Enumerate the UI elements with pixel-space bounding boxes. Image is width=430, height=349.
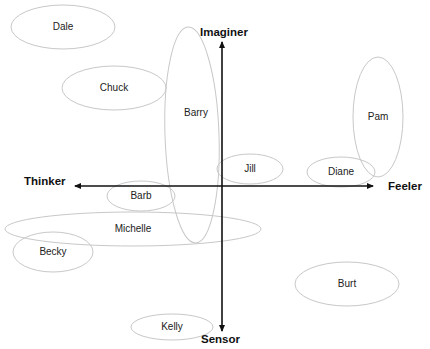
person-jill: Jill bbox=[217, 154, 283, 184]
person-burt: Burt bbox=[295, 262, 399, 306]
axis-label-right: Feeler bbox=[388, 180, 422, 192]
person-becky: Becky bbox=[13, 232, 93, 272]
axis-label-left: Thinker bbox=[24, 175, 66, 187]
person-diane: Diane bbox=[307, 157, 375, 187]
person-ellipse bbox=[161, 26, 223, 244]
person-label: Dale bbox=[53, 21, 74, 32]
person-ellipses: DaleChuckBarryJillPamDianeBarbMichelleBe… bbox=[5, 5, 403, 340]
axis-label-bottom: Sensor bbox=[201, 333, 241, 345]
person-label: Michelle bbox=[115, 223, 152, 234]
quadrant-diagram: DaleChuckBarryJillPamDianeBarbMichelleBe… bbox=[0, 0, 430, 349]
person-label: Becky bbox=[39, 246, 66, 257]
person-pam: Pam bbox=[353, 57, 403, 177]
person-label: Burt bbox=[338, 278, 357, 289]
person-label: Chuck bbox=[100, 82, 129, 93]
person-label: Kelly bbox=[161, 321, 183, 332]
person-barry: Barry bbox=[161, 26, 223, 244]
person-label: Barry bbox=[184, 107, 208, 118]
person-label: Jill bbox=[244, 163, 256, 174]
person-dale: Dale bbox=[11, 5, 115, 49]
person-label: Barb bbox=[130, 190, 152, 201]
person-label: Diane bbox=[328, 166, 355, 177]
person-chuck: Chuck bbox=[62, 66, 166, 110]
axis-label-top: Imaginer bbox=[200, 26, 248, 38]
person-label: Pam bbox=[368, 111, 389, 122]
